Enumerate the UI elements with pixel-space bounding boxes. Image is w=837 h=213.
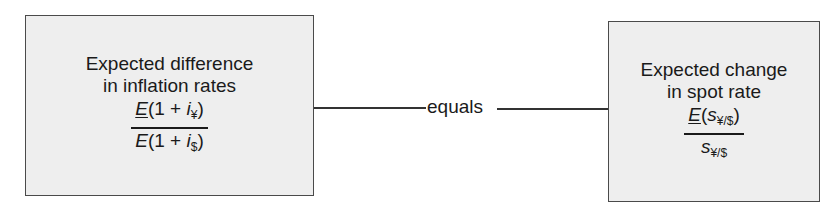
connector-line-right [497,108,608,110]
equals-label: equals [427,96,483,118]
formula-text: (1 + [148,130,187,151]
spot-rate-change-box: Expected change in spot rate E(s¥/$) s¥/… [608,21,820,202]
formula-text: ) [197,98,203,119]
formula-subscript: ¥/$ [717,114,734,128]
formula-denominator: E(1 + i$) [131,129,208,158]
formula-variable: s [701,136,711,157]
formula-denominator: s¥/$ [697,135,731,164]
formula-subscript: ¥/$ [710,146,727,160]
connector-line-left [314,107,426,109]
inflation-label-line2: in inflation rates [103,75,236,97]
formula-text: (1 + [148,98,187,119]
formula-numerator: E(s¥/$) [684,104,744,133]
formula-variable: s [707,104,717,125]
inflation-label-line1: Expected difference [86,53,254,75]
inflation-ratio-formula: E(1 + i¥) E(1 + i$) [131,98,208,158]
formula-text: ) [733,104,739,125]
expectation-symbol: E [135,130,148,151]
spot-ratio-formula: E(s¥/$) s¥/$ [684,104,744,164]
formula-numerator: E(1 + i¥) [131,98,208,127]
inflation-difference-box: Expected difference in inflation rates E… [25,15,314,196]
expectation-symbol: E [688,104,701,125]
expectation-symbol: E [135,98,148,119]
formula-text: ) [197,130,203,151]
spot-label-line2: in spot rate [667,81,761,103]
spot-label-line1: Expected change [641,59,788,81]
